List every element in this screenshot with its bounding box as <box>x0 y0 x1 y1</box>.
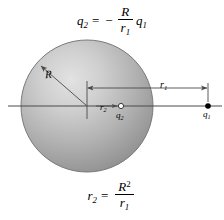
equation-bottom-fraction: R2 r1 <box>115 180 133 212</box>
equation-bottom-lhs: r2 <box>87 188 96 205</box>
charge-q2-marker <box>118 103 123 108</box>
charge-q1-marker <box>205 103 211 109</box>
equation-bottom-equals: = <box>101 188 108 204</box>
label-distance-outer: r1 <box>160 80 167 92</box>
equation-bottom: r2 = R2 r1 <box>0 178 224 214</box>
label-distance-inner: r2 <box>100 103 107 113</box>
equation-bottom-denominator: r1 <box>117 195 132 212</box>
label-charge-source: q1 <box>203 110 211 120</box>
label-charge-image: q2 <box>116 111 124 121</box>
physics-diagram: q2 = − R r1 q1 <box>0 0 224 220</box>
equation-bottom-numerator: R2 <box>115 180 133 194</box>
label-radius: R <box>45 69 52 80</box>
